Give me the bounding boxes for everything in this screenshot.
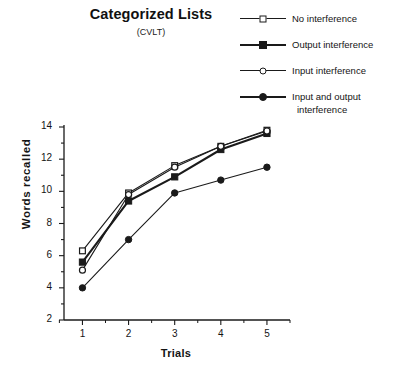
line-chart-svg [0, 0, 401, 374]
y-axis-tick-label: 14 [30, 120, 52, 131]
x-axis-tick-label: 1 [72, 328, 92, 339]
x-axis-tick-label: 2 [119, 328, 139, 339]
data-point [126, 192, 132, 198]
x-axis-tick-label: 4 [211, 328, 231, 339]
data-point [218, 177, 224, 183]
data-point [172, 164, 178, 170]
series-output-interference [79, 130, 270, 265]
data-point [171, 190, 177, 196]
x-axis-tick-label: 5 [257, 328, 277, 339]
data-point [125, 236, 131, 242]
y-axis-tick-label: 6 [30, 249, 52, 260]
y-axis-tick-label: 12 [30, 152, 52, 163]
y-axis-tick-label: 10 [30, 184, 52, 195]
data-point [264, 128, 270, 134]
y-axis-tick-label: 4 [30, 281, 52, 292]
data-point [264, 164, 270, 170]
data-point [172, 174, 178, 180]
data-point [80, 248, 86, 254]
chart-plot-area: Words recalled Trials 246810121412345 [0, 0, 401, 374]
x-axis-tick-label: 3 [165, 328, 185, 339]
data-point [218, 143, 224, 149]
data-point [79, 259, 85, 265]
y-axis-tick-label: 8 [30, 217, 52, 228]
series-input-interference [79, 128, 269, 273]
y-axis-tick-label: 2 [30, 313, 52, 324]
data-point [79, 267, 85, 273]
data-point [79, 285, 85, 291]
